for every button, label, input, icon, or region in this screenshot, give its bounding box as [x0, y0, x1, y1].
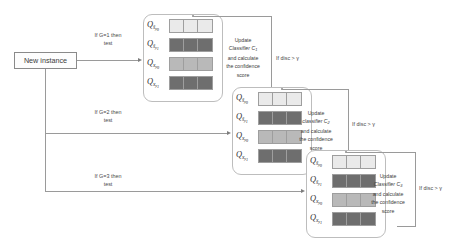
stage-3-update-line4: the confidence — [366, 198, 410, 206]
branch-3-arrowhead — [301, 189, 305, 193]
stage-3-classifier-index: 3 — [400, 184, 402, 189]
stage-3-row-4-label: Qxy1 — [310, 213, 332, 225]
stage-1-classifier-word: Classifier — [229, 45, 250, 51]
stage-1-loop-right-vline — [271, 16, 272, 90]
branch-3-line — [45, 191, 302, 192]
stage-1-feedback-text: If disc > γ — [276, 55, 299, 61]
branch-1-arrowhead — [138, 58, 142, 62]
stage-2-update-line2: classifier C2 — [294, 117, 338, 126]
stage-1-row-3: Qxy0 — [147, 57, 213, 71]
stage-2-update-line1: Update — [294, 109, 338, 117]
stage-2-loop-top-line — [282, 89, 349, 90]
grid-cell — [273, 150, 287, 162]
stage-3-update-line3: and calculate — [366, 190, 410, 198]
stage-2-row-4-label: Qxy1 — [236, 150, 258, 162]
branch-2-label-line1: If G=2 then — [80, 108, 136, 116]
stage-1-update-line2: Classifier C1 — [221, 44, 265, 53]
stage-1-loop-top-line — [193, 16, 272, 17]
grid-cell — [347, 156, 361, 168]
grid-cell — [333, 175, 347, 187]
grid-cell — [170, 20, 184, 32]
branch-3-label-line2: test — [80, 180, 136, 188]
stage-2-feedback-label: If disc > γ — [352, 122, 402, 127]
stage-2-row-1-grid — [258, 92, 302, 106]
stage-1-classifier-index: 1 — [255, 48, 257, 53]
grid-cell — [170, 77, 184, 89]
stage-2-row-3: Qxy0 — [236, 130, 302, 144]
stage-3-row-1-grid — [332, 155, 376, 169]
stage-3-update-line1: Update — [366, 172, 410, 180]
new-instance-node: New instance — [14, 52, 77, 69]
branch-3-label-line1: If G=3 then — [80, 172, 136, 180]
stage-1-row-2-label: Qŝy1 — [147, 39, 169, 51]
branch-2-label: If G=2 then test — [80, 108, 136, 125]
stage-2-update-line3: and calculate — [294, 127, 338, 135]
grid-cell — [347, 194, 361, 206]
stage-2-row-1-label: Qŝy0 — [236, 93, 258, 105]
grid-cell — [333, 194, 347, 206]
stage-2-update-line4: the confidence — [294, 135, 338, 143]
stage-3-loop-bottom-line — [397, 226, 416, 227]
grid-cell — [170, 39, 184, 51]
grid-cell — [184, 20, 198, 32]
branch-2-label-line2: test — [80, 116, 136, 124]
branch-2-arrowhead — [227, 131, 231, 135]
branch-2-line — [45, 133, 228, 134]
stage-1-feedback-label: If disc > γ — [276, 56, 326, 61]
grid-cell — [184, 77, 198, 89]
stage-3-row-3-label: Qxy0 — [310, 194, 332, 206]
grid-cell — [259, 93, 273, 105]
stage-3-row-2-label: Qŝy1 — [310, 175, 332, 187]
stage-1-update-line4: the confidence — [221, 62, 265, 70]
grid-cell — [170, 58, 184, 70]
stage-3-feedback-text: If disc > γ — [419, 185, 442, 191]
stage-1-row-2: Qŝy1 — [147, 38, 213, 52]
stage-2-row-2: Qŝy1 — [236, 111, 302, 125]
branch-1-label: If G=1 then test — [80, 31, 136, 48]
stage-1-row-1-grid — [169, 19, 213, 33]
grid-cell — [198, 20, 212, 32]
grid-cell — [259, 112, 273, 124]
grid-cell — [333, 213, 347, 225]
stage-2-row-1: Qŝy0 — [236, 92, 302, 106]
diagram-canvas: New instance If G=1 then test If G=2 the… — [0, 0, 476, 249]
stage-1-update-line3: and calculate — [221, 54, 265, 62]
grid-cell — [347, 175, 361, 187]
grid-cell — [273, 131, 287, 143]
trunk-vertical-line — [45, 69, 46, 191]
branch-1-line — [77, 60, 139, 61]
grid-cell — [273, 112, 287, 124]
stage-1-update-box: Update Classifier C1 and calculate the c… — [221, 36, 265, 79]
stage-1-update-line1: Update — [221, 36, 265, 44]
stage-1-row-4: Qxy1 — [147, 76, 213, 90]
stage-3-classifier-word: Classifier — [374, 181, 395, 187]
stage-1-update-line5: score — [221, 71, 265, 79]
stage-3-feedback-label: If disc > γ — [419, 186, 471, 191]
grid-cell — [259, 150, 273, 162]
stage-2-row-4: Qxy1 — [236, 149, 302, 163]
stage-1-row-4-grid — [169, 76, 213, 90]
stage-2-classifier-index: 2 — [328, 121, 330, 126]
grid-cell — [259, 131, 273, 143]
stage-1-row-1-label: Qŝy0 — [147, 20, 169, 32]
stage-3-row-1: Qŝy0 — [310, 155, 376, 169]
stage-2-update-box: Update classifier C2 and calculate the c… — [294, 109, 338, 152]
grid-cell — [361, 156, 375, 168]
stage-2-row-2-label: Qŝy1 — [236, 112, 258, 124]
stage-3-loop-right-vline — [415, 152, 416, 226]
stage-3-loop-top-line — [346, 152, 416, 153]
stage-1-row-4-label: Qxy1 — [147, 77, 169, 89]
stage-3-row-1-label: Qŝy0 — [310, 156, 332, 168]
branch-3-label: If G=3 then test — [80, 172, 136, 189]
stage-1-row-2-grid — [169, 38, 213, 52]
stage-3-update-line5: score — [366, 207, 410, 215]
grid-cell — [273, 93, 287, 105]
stage-2-classifier-word: classifier — [302, 118, 322, 124]
stage-2-row-3-label: Qxy0 — [236, 131, 258, 143]
stage-3-update-box: Update Classifier C3 and calculate the c… — [366, 172, 410, 215]
grid-cell — [347, 213, 361, 225]
grid-cell — [184, 39, 198, 51]
grid-cell — [198, 39, 212, 51]
branch-1-label-line2: test — [80, 39, 136, 47]
grid-cell — [198, 58, 212, 70]
